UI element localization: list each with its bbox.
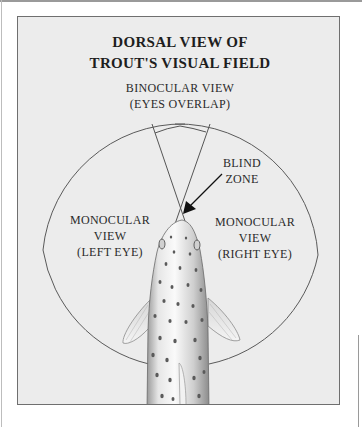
monocular-left-label-line1: MONOCULAR: [55, 212, 165, 228]
blind-zone-label-line2: ZONE: [187, 171, 297, 187]
figure-title-line1: DORSAL VIEW OF: [17, 32, 343, 52]
monocular-left-label-line2: VIEW: [55, 228, 165, 244]
figure-title-line2: TROUT'S VISUAL FIELD: [17, 53, 343, 73]
binocular-label-line1: BINOCULAR VIEW: [17, 80, 343, 96]
monocular-left-label-line3: (LEFT EYE): [55, 244, 165, 260]
monocular-right-label-line2: VIEW: [200, 230, 310, 246]
monocular-right-label-line3: (RIGHT EYE): [200, 246, 310, 262]
binocular-label-line2: (EYES OVERLAP): [17, 96, 343, 112]
blind-zone-label-line1: BLIND: [187, 155, 297, 171]
monocular-right-label-line1: MONOCULAR: [200, 214, 310, 230]
